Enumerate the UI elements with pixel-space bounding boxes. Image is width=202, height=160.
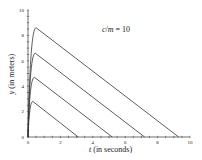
y-tick-label: 6 xyxy=(22,59,25,64)
y-tick-label: 8 xyxy=(22,33,25,38)
x-tick-label: 2 xyxy=(59,140,62,145)
series-curve-1 xyxy=(28,101,78,137)
x-axis-label: t (in seconds) xyxy=(89,145,132,154)
y-axis-label: y (in meters) xyxy=(7,53,16,95)
x-tick-label: 0 xyxy=(27,140,30,145)
y-tick-label: 10 xyxy=(19,8,25,13)
annotation: c/m = 10 xyxy=(102,25,130,34)
y-tick-label: 4 xyxy=(22,84,25,89)
series-curve-4 xyxy=(28,28,179,137)
y-tick-label: 0 xyxy=(22,135,25,140)
series xyxy=(28,28,179,137)
chart: 02468100246810 c/m = 10 t (in seconds) y… xyxy=(0,0,202,160)
x-tick-label: 8 xyxy=(156,140,159,145)
y-tick-label: 2 xyxy=(22,109,25,114)
x-tick-label: 10 xyxy=(188,140,194,145)
